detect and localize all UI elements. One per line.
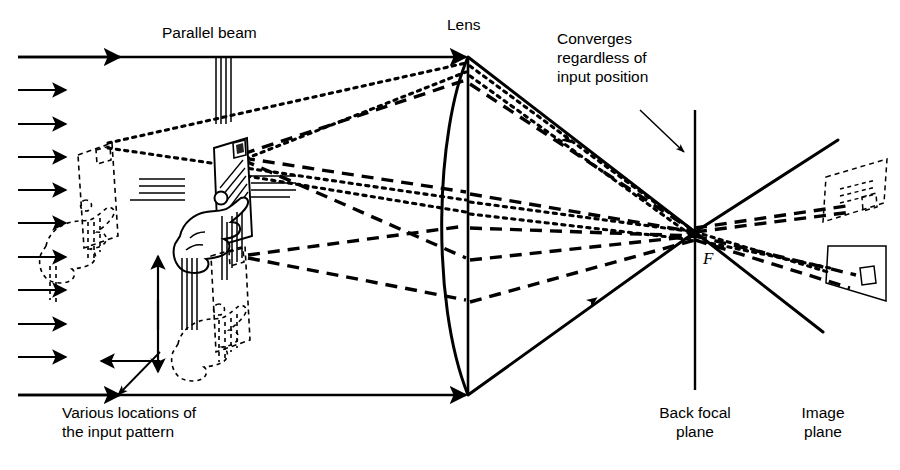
solid-ray-lower	[468, 232, 695, 395]
label-converges-line2: regardless of	[557, 49, 647, 67]
solid-ray-upper-ext	[695, 232, 823, 332]
dashed-ray-a4	[248, 226, 466, 255]
label-back-focal-plane-line2: plane	[635, 423, 755, 441]
label-lens: Lens	[447, 16, 481, 34]
dashed-ray-c1	[695, 212, 852, 232]
thumb-tip	[215, 192, 228, 205]
motion-arrow-diagonal	[118, 352, 160, 395]
ghost-lines-lower	[219, 314, 237, 362]
dashed-ray-c2	[695, 236, 856, 275]
output-image-marker	[860, 266, 876, 285]
figure-canvas: Parallel beam Lens Converges regardless …	[0, 0, 900, 470]
dashed-ray-bundle	[243, 80, 856, 302]
output-image-ghost-frame	[823, 159, 887, 222]
dashed-ray-a5	[248, 258, 466, 300]
dotted-ray-a1	[108, 63, 466, 143]
label-parallel-beam: Parallel beam	[162, 24, 257, 42]
text-rules-left	[130, 179, 185, 200]
motion-arrows	[101, 256, 160, 395]
ghost-hand-lower	[172, 304, 246, 381]
label-converges-line1: Converges	[557, 30, 632, 48]
ray-diagram-svg	[0, 0, 900, 470]
converges-annotation-arrow	[640, 110, 684, 152]
dashed-ray-a3	[243, 160, 466, 258]
beam-slit-lines	[216, 57, 231, 124]
label-various-locations-line2: the input pattern	[62, 423, 174, 441]
dashed-ray-b1	[470, 84, 695, 232]
dashed-ray-a2	[243, 158, 466, 192]
label-various-locations-line1: Various locations of	[62, 404, 196, 422]
dashed-ray-b5	[470, 240, 695, 302]
label-converges-line3: input position	[557, 68, 648, 86]
label-focal-point: F	[703, 249, 713, 269]
dashed-ray-b4	[470, 228, 695, 236]
dotted-ray-b3	[470, 76, 695, 238]
label-image-plane-line1: Image	[775, 404, 871, 422]
label-image-plane-line2: plane	[775, 423, 871, 441]
output-image-ghost-lines	[840, 180, 876, 203]
label-back-focal-plane-line1: Back focal	[635, 404, 755, 422]
dotted-ray-a2	[108, 148, 466, 200]
output-image-ghost	[823, 159, 887, 222]
